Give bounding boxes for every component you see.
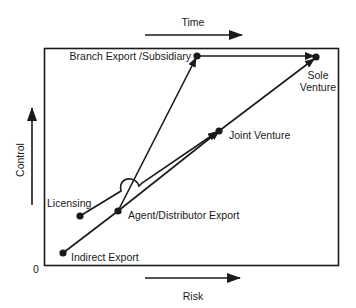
diagram-canvas [0,0,356,308]
label-agent-distributor: Agent/Distributor Export [128,209,239,221]
control-label: Control [14,135,26,185]
node-dot-indirect-export [59,249,66,256]
risk-label: Risk [168,290,218,302]
node-dot-licensing [76,212,83,219]
label-indirect-export: Indirect Export [71,251,139,263]
label-branch-export: Branch Export /Subsidiary [60,50,191,62]
node-dot-joint-venture [215,127,222,134]
node-dot-branch-export [193,52,200,59]
edge-indirect-agent [63,211,118,253]
label-sole: Sole [300,69,336,81]
label-venture: Venture [290,81,336,93]
edge-agent-joint [118,131,219,211]
time-label: Time [168,16,218,28]
edge-licensing-joint [80,132,217,216]
origin-label: 0 [33,263,39,275]
label-licensing: Licensing [47,197,91,209]
node-dot-agent-distributor [114,207,121,214]
node-dot-sole-venture [312,53,319,60]
edge-agent-branch [118,58,196,211]
label-joint-venture: Joint Venture [229,129,290,141]
